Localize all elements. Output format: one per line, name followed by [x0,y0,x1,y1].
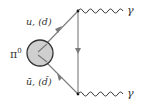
quark-arrow-icon [55,26,62,33]
photon-top-wave [78,9,123,13]
gamma-top-label: γ [127,4,134,17]
pion-blob [27,40,53,66]
propagator-arrow-icon [75,48,81,54]
photon-bottom-wave [78,92,123,96]
pion-label: π0 [10,47,22,61]
quark-label: u, (d) [26,16,52,27]
feynman-diagram: γ γ π0 u, (d) ū, (d̄) [0,0,144,105]
pion-symbol: π [10,48,17,61]
pion-superscript: 0 [17,47,21,55]
antiquark-label: ū, (d̄) [26,76,52,87]
gamma-bottom-label: γ [127,87,134,100]
